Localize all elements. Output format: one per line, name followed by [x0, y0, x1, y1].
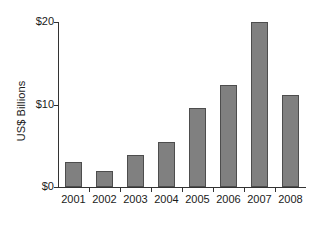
x-axis-tick-label: 2007	[244, 193, 275, 205]
x-axis-tick-label: 2003	[120, 193, 151, 205]
x-axis-tick	[182, 188, 183, 192]
x-axis-tick-label: 2006	[213, 193, 244, 205]
x-axis-tick	[120, 188, 121, 192]
bar	[282, 95, 299, 187]
x-axis-tick-label: 2001	[58, 193, 89, 205]
bar	[65, 162, 82, 187]
bar	[96, 171, 113, 188]
y-axis-tick-label: $0	[20, 180, 54, 192]
x-axis-tick-label: 2008	[275, 193, 306, 205]
bar	[220, 85, 237, 187]
bar	[251, 22, 268, 187]
x-axis-tick-labels: 20012002200320042005200620072008	[58, 193, 306, 209]
x-axis-tick-label: 2002	[89, 193, 120, 205]
x-axis-tick	[213, 188, 214, 192]
bar	[127, 155, 144, 187]
bar-series	[58, 22, 306, 188]
x-axis-tick	[89, 188, 90, 192]
x-axis-tick	[151, 188, 152, 192]
plot-area	[58, 22, 306, 188]
y-axis-tick-labels: $0$10$20	[20, 0, 54, 225]
x-axis-tick	[275, 188, 276, 192]
y-axis-tick-label: $20	[20, 15, 54, 27]
x-axis-tick-label: 2004	[151, 193, 182, 205]
bar	[158, 142, 175, 187]
x-axis-tick	[244, 188, 245, 192]
bar	[189, 108, 206, 187]
bar-chart: US$ Billions $0$10$20 200120022003200420…	[0, 0, 321, 225]
y-axis-tick-label: $10	[20, 98, 54, 110]
x-axis-tick-label: 2005	[182, 193, 213, 205]
